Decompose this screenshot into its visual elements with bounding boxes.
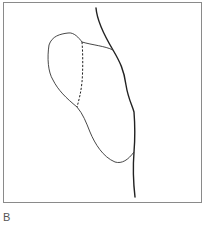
panel-label: B — [3, 211, 10, 223]
lobe-outline — [48, 33, 134, 163]
diagram-drawing — [0, 0, 206, 227]
thick-boundary-line — [96, 8, 135, 197]
dashed-division-line — [77, 42, 83, 107]
